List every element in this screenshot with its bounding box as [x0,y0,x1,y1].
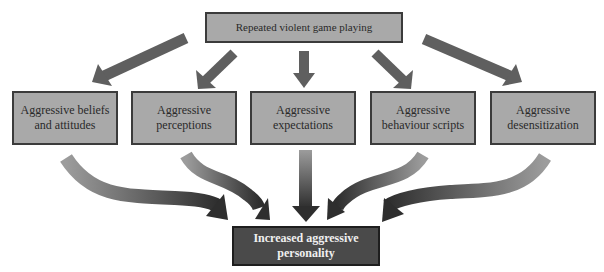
arrow-perceptions-to-outcome [186,155,270,220]
mediator-label: Aggressive desensitization [507,103,578,133]
outcome-node: Increased aggressive personality [232,226,380,266]
arrow-expectations-to-outcome [292,150,320,222]
mediator-node-scripts: Aggressive behaviour scripts [370,91,476,145]
arrow-source-to-scripts [375,53,413,89]
source-node: Repeated violent game playing [205,12,403,43]
mediator-label: Aggressive behaviour scripts [382,103,464,133]
arrow-source-to-expectations [293,51,315,88]
arrow-source-to-perceptions [196,53,234,89]
mediator-node-desensitization: Aggressive desensitization [490,91,596,145]
mediator-node-perceptions: Aggressive perceptions [131,91,237,145]
diagram-canvas: Repeated violent game playing Aggressive… [0,0,604,272]
arrow-source-to-desensitization [424,39,522,86]
arrow-scripts-to-outcome [327,155,423,220]
mediator-label: Aggressive beliefs and attitudes [21,103,110,133]
mediator-label: Aggressive perceptions [156,103,211,133]
source-node-label: Repeated violent game playing [236,20,373,35]
mediator-node-expectations: Aggressive expectations [250,91,356,145]
mediator-label: Aggressive expectations [273,103,333,133]
mediator-node-beliefs: Aggressive beliefs and attitudes [12,91,118,145]
arrow-source-to-beliefs [92,38,186,86]
outcome-node-label: Increased aggressive personality [253,231,358,261]
